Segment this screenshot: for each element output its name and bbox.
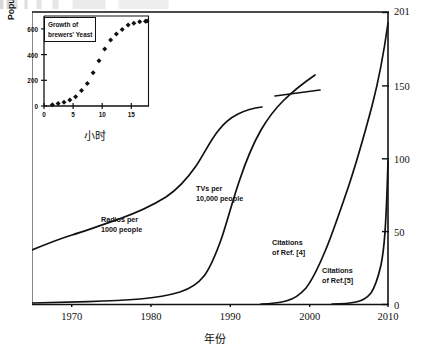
- annotation-citations-ref5-line2: of Ref.[5]: [322, 276, 353, 286]
- x-tick-label-2010: 2010: [378, 311, 399, 322]
- inset-x-axis-title: 小时: [40, 127, 150, 143]
- inset-y-tick-label-0: 0: [18, 103, 38, 110]
- x-tick-label-1980: 1980: [141, 311, 162, 322]
- top-edge-artifact: [0, 0, 429, 9]
- annotation-radios-line1: Radios per: [101, 215, 142, 225]
- annotation-tvs-line2: 10,000 people: [196, 194, 243, 204]
- inset-x-tick-label-5: 5: [71, 111, 75, 118]
- inset-x-tick-label-10: 10: [99, 111, 106, 118]
- y-tick-label-50: 50: [394, 227, 405, 238]
- annotation-citations-ref5: Citations of Ref.[5]: [322, 266, 353, 287]
- annotation-citations-ref5-line1: Citations: [322, 266, 353, 276]
- annotation-tvs: TVs per 10,000 people: [196, 184, 243, 205]
- x-tick-label-1970: 1970: [61, 311, 82, 322]
- inset-x-tick-label-15: 15: [128, 111, 135, 118]
- inset-chart: Population ( in biomass units) Growth of…: [22, 14, 150, 148]
- y-tick-label-0: 0: [394, 300, 399, 311]
- y-tick-label-150: 150: [394, 81, 410, 92]
- inset-title-line2: brewers' Yeast: [48, 30, 92, 40]
- series-curve-citations-ref4: [261, 23, 388, 304]
- inset-title-box: Growth of brewers' Yeast: [44, 17, 96, 42]
- x-tick-label-2000: 2000: [299, 311, 320, 322]
- inset-y-tick-label-600: 600: [18, 25, 38, 32]
- inset-y-axis-title: Population ( in biomass units): [6, 0, 18, 20]
- annotation-citations-ref4-line2: of Ref. [4]: [272, 248, 305, 258]
- annotation-tvs-line1: TVs per: [196, 184, 243, 194]
- series-curve-radios-plateau: [275, 90, 320, 96]
- inset-title-line1: Growth of: [48, 20, 92, 30]
- annotation-radios-line2: 1000 people: [101, 225, 142, 235]
- figure-canvas: 0 50 100 150 201 1970 1980 1990 2000 201…: [0, 0, 429, 355]
- y-tick-label-201: 201: [394, 6, 410, 17]
- x-tick-label-1990: 1990: [220, 311, 241, 322]
- annotation-radios: Radios per 1000 people: [101, 215, 142, 236]
- x-axis-title: 年份: [0, 330, 429, 346]
- inset-y-tick-label-400: 400: [18, 51, 38, 58]
- inset-x-tick-label-0: 0: [42, 111, 46, 118]
- annotation-citations-ref4-line1: Citations: [272, 238, 305, 248]
- y-tick-label-100: 100: [394, 154, 410, 165]
- inset-y-tick-label-200: 200: [18, 77, 38, 84]
- annotation-citations-ref4: Citations of Ref. [4]: [272, 238, 305, 259]
